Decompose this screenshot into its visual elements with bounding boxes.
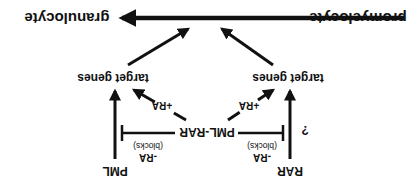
target-genes-to-main-arrow-right [128,29,188,65]
plus-ra-left-label: +RA [239,100,259,111]
blocks-right-label: (blocks) [133,141,163,151]
promyelocyte-label: promyelocyte [309,10,407,27]
pml-rar-label: PML-RAR [179,125,235,139]
target-genes-left-label: target genes [252,71,324,85]
plus-ra-right-label: +RA [152,100,172,111]
differentiation-diagram: promyelocyte granulocyte target genes ta… [0,0,418,187]
target-genes-right-label: target genes [77,71,149,85]
minus-ra-left-label: -RA [253,152,271,163]
question-mark: ? [301,123,308,137]
granulocyte-label: granulocyte [24,10,109,27]
target-genes-to-main-arrow-left [222,29,273,65]
rar-label: RAR [277,164,303,178]
pml-label: PML [102,164,127,178]
minus-ra-right-label: -RA [139,152,157,163]
blocks-left-label: (blocks) [247,141,277,151]
